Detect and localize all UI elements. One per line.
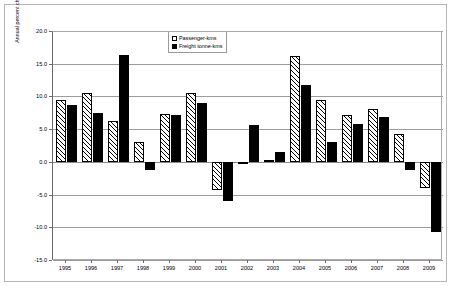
- chart-legend: Passenger-kms Freight tonne-kms: [168, 31, 227, 53]
- bar-passenger-1999: [160, 114, 170, 162]
- plot-area: [52, 31, 442, 260]
- y-tick-mark: [49, 129, 52, 130]
- bar-freight-1997: [119, 55, 129, 162]
- y-tick-label: 15.0: [5, 61, 47, 67]
- x-tick-mark: [221, 260, 222, 263]
- gridline: [53, 31, 443, 32]
- bar-freight-1999: [171, 115, 181, 162]
- bar-freight-2003: [275, 152, 285, 162]
- y-tick-label: -15.0: [5, 257, 47, 263]
- legend-swatch-freight-icon: [172, 44, 177, 49]
- y-tick-label: 5.0: [5, 126, 47, 132]
- legend-swatch-passenger-icon: [172, 36, 177, 41]
- y-tick-label: -5.0: [5, 192, 47, 198]
- y-tick-label: 0.0: [5, 159, 47, 165]
- y-tick-mark: [49, 64, 52, 65]
- bar-freight-2006: [353, 124, 363, 162]
- legend-item-freight: Freight tonne-kms: [172, 42, 222, 50]
- x-tick-mark: [143, 260, 144, 263]
- gridline: [53, 162, 443, 163]
- bar-freight-2005: [327, 142, 337, 162]
- x-tick-mark: [273, 260, 274, 263]
- y-tick-mark: [49, 195, 52, 196]
- bar-freight-2008: [405, 162, 415, 170]
- y-tick-label: 20.0: [5, 28, 47, 34]
- bar-freight-1995: [67, 105, 77, 162]
- bar-passenger-1997: [108, 121, 118, 162]
- bar-freight-2000: [197, 103, 207, 162]
- x-tick-mark: [117, 260, 118, 263]
- bar-freight-2002: [249, 125, 259, 162]
- gridline: [53, 64, 443, 65]
- y-tick-label: 10.0: [5, 93, 47, 99]
- bar-passenger-2002: [238, 162, 248, 164]
- chart-screenshot: Annual percent change Passenger-kms Frei…: [0, 0, 451, 286]
- legend-label-passenger: Passenger-kms: [179, 35, 216, 42]
- x-tick-mark: [195, 260, 196, 263]
- y-tick-mark: [49, 162, 52, 163]
- bar-passenger-2007: [368, 109, 378, 162]
- bar-passenger-2000: [186, 93, 196, 162]
- gridline: [53, 195, 443, 196]
- chart-frame: Annual percent change Passenger-kms Frei…: [4, 4, 447, 282]
- x-tick-mark: [91, 260, 92, 263]
- gridline: [53, 96, 443, 97]
- bar-freight-2007: [379, 117, 389, 162]
- bar-passenger-1998: [134, 142, 144, 162]
- bar-freight-1996: [93, 113, 103, 161]
- bar-passenger-2005: [316, 100, 326, 162]
- x-tick-mark: [377, 260, 378, 263]
- bar-freight-2001: [223, 162, 233, 201]
- bar-passenger-2003: [264, 160, 274, 162]
- bar-freight-2009: [431, 162, 441, 232]
- x-tick-mark: [351, 260, 352, 263]
- x-tick-mark: [403, 260, 404, 263]
- bar-freight-1998: [145, 162, 155, 171]
- x-tick-mark: [169, 260, 170, 263]
- y-tick-mark: [49, 96, 52, 97]
- x-tick-label-2009: 2009: [414, 265, 444, 272]
- x-tick-mark: [325, 260, 326, 263]
- x-tick-mark: [247, 260, 248, 263]
- legend-label-freight: Freight tonne-kms: [179, 43, 222, 50]
- bar-passenger-2001: [212, 162, 222, 190]
- gridline: [53, 260, 443, 261]
- bar-passenger-2004: [290, 56, 300, 162]
- y-tick-mark: [49, 227, 52, 228]
- bar-passenger-2009: [420, 162, 430, 188]
- y-tick-label: -10.0: [5, 224, 47, 230]
- y-tick-mark: [49, 260, 52, 261]
- bar-passenger-2008: [394, 134, 404, 161]
- gridline: [53, 227, 443, 228]
- bar-freight-2004: [301, 85, 311, 162]
- y-tick-mark: [49, 31, 52, 32]
- x-tick-mark: [65, 260, 66, 263]
- bar-passenger-1996: [82, 93, 92, 162]
- bar-passenger-1995: [56, 100, 66, 162]
- legend-item-passenger: Passenger-kms: [172, 34, 222, 42]
- bar-passenger-2006: [342, 115, 352, 162]
- x-tick-mark: [299, 260, 300, 263]
- x-tick-mark: [429, 260, 430, 263]
